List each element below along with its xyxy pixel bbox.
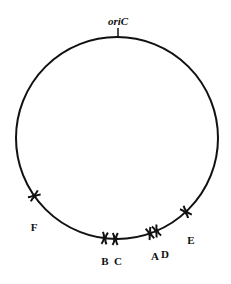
site-label-d: D: [161, 248, 169, 260]
site-label-e: E: [187, 234, 194, 246]
chromosome-map: oriC F B C A D E: [0, 0, 231, 284]
oric-label: oriC: [108, 15, 129, 27]
site-marker-f: [28, 190, 41, 201]
site-label-f: F: [31, 221, 38, 233]
site-marker-d: [152, 225, 161, 238]
site-label-b: B: [101, 255, 109, 267]
site-label-c: C: [114, 255, 122, 267]
site-label-a: A: [151, 250, 159, 262]
chromosome-circle: [16, 37, 218, 239]
